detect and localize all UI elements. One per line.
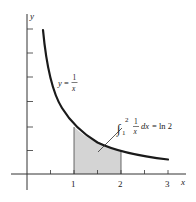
curve-label-y: y (57, 78, 62, 88)
y-axis-label: y (29, 11, 34, 21)
shaded-integral-region (74, 127, 121, 174)
integral-upper-limit: 2 (125, 116, 129, 124)
curve-label-eq: = (64, 78, 69, 88)
x-axis-label: x (180, 177, 185, 187)
integral-dx: dx (141, 121, 149, 131)
y-ticks (27, 29, 33, 151)
integral-den: x (133, 127, 138, 136)
x-tick-label-3: 3 (165, 179, 170, 189)
chart: 1 2 3 x y y = 1 x ∫ 2 1 1 x dx = ln 2 (0, 0, 196, 202)
integral-num: 1 (134, 117, 138, 126)
x-tick-label-1: 1 (71, 179, 76, 189)
curve-one-over-x (43, 30, 168, 160)
curve-label-den: x (71, 84, 76, 93)
integral-lower-limit: 1 (122, 129, 126, 137)
curve-label-num: 1 (73, 73, 77, 82)
x-tick-label-2: 2 (118, 179, 123, 189)
integral-result: = ln 2 (152, 121, 172, 131)
